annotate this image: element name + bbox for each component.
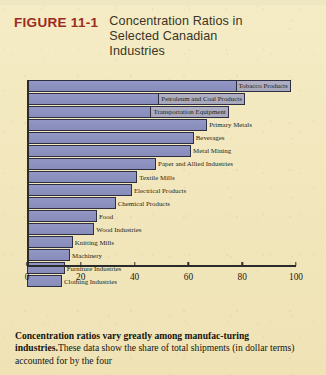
bar-chart: Tobacco ProductsPetroleum and Coal Produ… — [11, 78, 315, 310]
figure-title-line-3: Industries — [109, 44, 242, 59]
x-axis-tick — [241, 262, 242, 267]
x-axis-line — [27, 265, 296, 267]
plot-area: Tobacco ProductsPetroleum and Coal Produ… — [27, 80, 296, 288]
bar-label: Electrical Products — [133, 184, 188, 196]
bar-row: Wood Industries — [27, 223, 296, 235]
bar: Petroleum and Coal Products — [27, 93, 245, 105]
bar — [27, 119, 207, 131]
x-axis-tick-label: 60 — [184, 272, 193, 282]
bar-row: Tobacco Products — [27, 80, 296, 92]
bar-label: Tobacco Products — [236, 80, 291, 92]
bar — [27, 145, 191, 157]
bar-label: Chemical Products — [117, 197, 172, 209]
y-axis-line — [27, 80, 29, 267]
x-axis-tick — [80, 262, 81, 267]
bar-row: Petroleum and Coal Products — [27, 93, 296, 105]
bar-label: Paper and Allied Industries — [157, 158, 235, 170]
bar — [27, 184, 132, 196]
bar-row: Textile Mills — [27, 171, 296, 183]
bar — [27, 132, 194, 144]
bar-label: Wood Industries — [95, 223, 143, 235]
bar — [27, 262, 65, 274]
bar-label: Petroleum and Coal Products — [158, 93, 245, 105]
bar — [27, 210, 97, 222]
bar: Transportation Equipment — [27, 106, 229, 118]
bar-label: Knitting Mills — [74, 236, 116, 248]
bar-label: Textile Mills — [138, 171, 176, 183]
bar-row: Primary Metals — [27, 119, 296, 131]
bar — [27, 158, 156, 170]
bar: Tobacco Products — [27, 80, 291, 92]
figure-number: FIGURE 11-1 — [14, 14, 98, 30]
page-top-edge — [0, 0, 326, 5]
bar-row: Food — [27, 210, 296, 222]
x-axis-tick-label: 80 — [238, 272, 247, 282]
bar — [27, 223, 94, 235]
x-axis-tick — [134, 262, 135, 267]
bar-row: Beverages — [27, 132, 296, 144]
bar-row: Machinery — [27, 249, 296, 261]
bar-row: Clothing Industries — [27, 275, 296, 287]
bar-row: Transportation Equipment — [27, 106, 296, 118]
bar-label: Metal Mining — [192, 145, 233, 157]
x-axis-tick-label: 40 — [130, 272, 139, 282]
x-axis-tick-label: 100 — [289, 272, 303, 282]
bar-row: Chemical Products — [27, 197, 296, 209]
x-axis-tick — [26, 262, 27, 267]
bar-rows: Tobacco ProductsPetroleum and Coal Produ… — [27, 80, 296, 288]
bar-label: Beverages — [195, 132, 227, 144]
bar-label: Furniture Industries — [66, 262, 124, 274]
x-axis-tick-label: 20 — [76, 272, 85, 282]
x-axis-tick — [188, 262, 189, 267]
bar — [27, 197, 116, 209]
figure-title-line-2: Selected Canadian — [109, 29, 242, 44]
bar-label: Primary Metals — [208, 119, 254, 131]
figure-header: FIGURE 11-1 Concentration Ratios in Sele… — [14, 14, 316, 60]
bar-row: Paper and Allied Industries — [27, 158, 296, 170]
bar — [27, 275, 62, 287]
bar-label: Transportation Equipment — [150, 106, 228, 118]
x-axis-tick-label: 0 — [25, 272, 30, 282]
bar-label: Clothing Industries — [63, 275, 119, 287]
bar — [27, 171, 137, 183]
bar-label: Food — [98, 210, 115, 222]
figure-title: Concentration Ratios in Selected Canadia… — [109, 14, 242, 60]
bar-label: Machinery — [71, 249, 104, 261]
figure-title-line-1: Concentration Ratios in — [109, 14, 242, 29]
bar-row: Knitting Mills — [27, 236, 296, 248]
figure-caption: Concentration ratios vary greatly among … — [15, 330, 314, 367]
bar-row: Furniture Industries — [27, 262, 296, 274]
bar — [27, 249, 70, 261]
bar-row: Metal Mining — [27, 145, 296, 157]
bar — [27, 236, 73, 248]
x-axis-tick — [295, 262, 296, 267]
bar-row: Electrical Products — [27, 184, 296, 196]
